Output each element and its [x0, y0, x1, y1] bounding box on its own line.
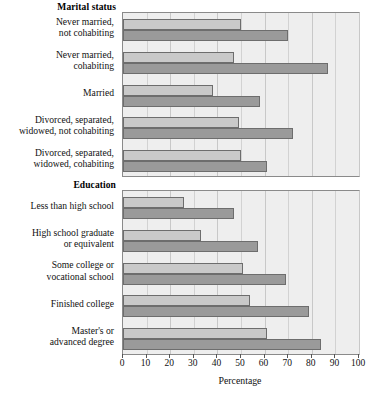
category-label: Never married, cohabiting [0, 49, 118, 71]
category-label: Divorced, separated, widowed, cohabiting [0, 147, 118, 169]
bar-dark [123, 339, 321, 350]
bar-dark [123, 30, 288, 41]
plot-area-marital-status [122, 12, 360, 177]
bar-light [123, 263, 243, 274]
category-label: Married [0, 87, 118, 98]
bar-dark [123, 241, 258, 252]
bar-light [123, 85, 213, 96]
tick-label: 40 [212, 358, 222, 369]
category-label: Some college or vocational school [0, 259, 118, 281]
category-label: Finished college [0, 298, 118, 309]
bar-light [123, 230, 201, 241]
x-axis-title: Percentage [122, 375, 358, 386]
gridline [359, 13, 360, 176]
panel-title-marital-status: Marital status [0, 2, 116, 13]
tick-label: 30 [188, 358, 198, 369]
category-label: Never married, not cohabiting [0, 16, 118, 38]
panel-title-education: Education [0, 180, 116, 191]
plot-area-education [122, 190, 360, 355]
bar-dark [123, 128, 293, 139]
gridline [359, 191, 360, 354]
x-axis-ticks: 0102030405060708090100 [122, 354, 358, 358]
gridline [335, 13, 336, 176]
tick-label: 60 [259, 358, 269, 369]
tick-label: 100 [351, 358, 365, 369]
category-label: High school graduate or equivalent [0, 227, 118, 249]
bar-dark [123, 274, 286, 285]
category-label: Less than high school [0, 200, 118, 211]
tick-label: 80 [306, 358, 316, 369]
tick-label: 0 [120, 358, 125, 369]
gridline [335, 191, 336, 354]
tick-label: 10 [141, 358, 151, 369]
tick-label: 20 [164, 358, 174, 369]
bar-dark [123, 161, 267, 172]
bar-dark [123, 96, 260, 107]
tick-label: 90 [330, 358, 340, 369]
bar-light [123, 295, 250, 306]
bar-dark [123, 63, 328, 74]
bar-light [123, 197, 184, 208]
category-label: Divorced, separated, widowed, not cohabi… [0, 114, 118, 136]
bar-light [123, 19, 241, 30]
bar-dark [123, 208, 234, 219]
bar-light [123, 52, 234, 63]
chart-figure: Marital status Education 010203040506070… [0, 0, 375, 395]
tick-label: 70 [282, 358, 292, 369]
gridline [312, 191, 313, 354]
bar-light [123, 328, 267, 339]
bar-dark [123, 306, 309, 317]
category-label: Master's or advanced degree [0, 325, 118, 347]
tick-label: 50 [235, 358, 245, 369]
gridline [312, 13, 313, 176]
bar-light [123, 150, 241, 161]
gridline [288, 13, 289, 176]
bar-light [123, 117, 239, 128]
gridline [288, 191, 289, 354]
